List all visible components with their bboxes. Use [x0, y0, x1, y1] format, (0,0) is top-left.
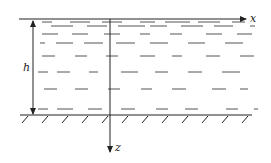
hatch-mark — [42, 116, 48, 123]
z-axis-label: z — [114, 141, 121, 154]
hatch-mark — [242, 116, 248, 123]
fluid-layer-diagram: x z h — [0, 0, 271, 163]
hatch-mark — [82, 116, 88, 123]
ground-hatching — [22, 116, 248, 123]
hatch-mark — [222, 116, 228, 123]
hatch-mark — [122, 116, 128, 123]
hatch-mark — [202, 116, 208, 123]
depth-label-h: h — [23, 61, 30, 74]
hatch-mark — [182, 116, 188, 123]
x-axis-label: x — [250, 12, 257, 25]
hatch-mark — [62, 116, 68, 123]
hatch-mark — [22, 116, 28, 123]
hatch-mark — [102, 116, 108, 123]
hatch-mark — [162, 116, 168, 123]
hatch-mark — [142, 116, 148, 123]
fluid-dash-pattern — [38, 22, 258, 109]
